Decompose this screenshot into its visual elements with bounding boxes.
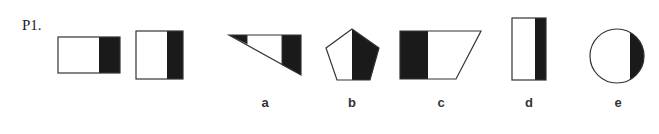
- option-b-figure[interactable]: [326, 29, 379, 80]
- stimulus-figure-1: [58, 37, 120, 73]
- option-d-label[interactable]: d: [519, 95, 539, 110]
- figure-canvas: [0, 0, 659, 134]
- option-a-label[interactable]: a: [255, 95, 275, 110]
- option-d-figure[interactable]: [512, 18, 546, 80]
- option-b-label[interactable]: b: [342, 95, 362, 110]
- option-e-figure[interactable]: [590, 29, 644, 83]
- stimulus-figure-2: [136, 31, 183, 79]
- option-e-label[interactable]: e: [608, 95, 628, 110]
- option-a-figure[interactable]: [229, 35, 301, 75]
- option-c-figure[interactable]: [400, 31, 481, 79]
- option-c-label[interactable]: c: [431, 95, 451, 110]
